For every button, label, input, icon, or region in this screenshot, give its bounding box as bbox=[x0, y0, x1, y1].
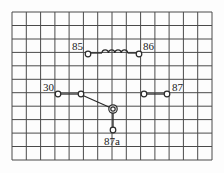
relay-coil bbox=[85, 50, 142, 57]
relay-diagram: 85 86 30 87 87a bbox=[0, 0, 224, 173]
terminal-86 bbox=[136, 51, 142, 57]
terminal-30 bbox=[55, 91, 61, 97]
label-85: 85 bbox=[72, 40, 84, 52]
label-86: 86 bbox=[143, 40, 155, 52]
terminal-87a bbox=[110, 127, 116, 133]
terminal-85 bbox=[85, 51, 91, 57]
label-87a: 87a bbox=[104, 135, 120, 147]
label-87: 87 bbox=[172, 81, 184, 93]
pivot-inner bbox=[111, 107, 115, 111]
label-30: 30 bbox=[43, 81, 55, 93]
contact-87-open bbox=[141, 91, 147, 97]
terminal-87 bbox=[164, 91, 170, 97]
